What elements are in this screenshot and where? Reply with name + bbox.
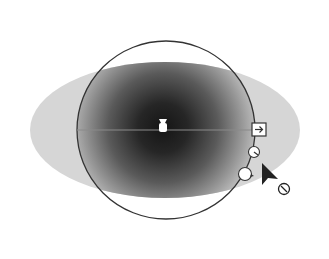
gradient-canvas[interactable] [0, 0, 329, 259]
gradient-origin-stop[interactable] [159, 119, 167, 132]
slash-circle-icon [279, 184, 290, 195]
rotate-handle-icon[interactable] [249, 147, 260, 158]
arrow-right-square-icon[interactable] [252, 123, 266, 136]
